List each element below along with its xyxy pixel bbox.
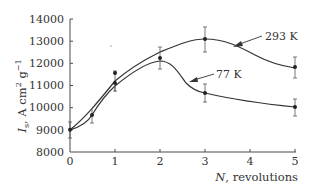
series-293k-line	[70, 39, 295, 130]
y-axis-label: Is, A cm2 g−1	[14, 59, 31, 133]
y-tick-label: 14000	[29, 13, 64, 26]
y-tick-labels: 14000 13000 12000 11000 10000 9000 8000	[29, 13, 64, 159]
annotation-77k: 77 K	[189, 68, 242, 82]
x-tick-labels: 0 1 2 3 4 5	[67, 155, 299, 168]
x-axis-label: N, revolutions	[214, 170, 298, 184]
x-tick-label: 1	[112, 155, 119, 168]
annotation-293k: 293 K	[233, 30, 298, 47]
series-293k-points	[68, 37, 297, 132]
y-tick-label: 11000	[29, 79, 64, 92]
y-tick-label: 8000	[36, 146, 64, 159]
label-293k: 293 K	[265, 30, 298, 43]
x-tick-label: 2	[157, 155, 164, 168]
y-tick-label: 12000	[29, 57, 64, 70]
x-tick-label: 4	[247, 155, 254, 168]
x-tick-label: 3	[202, 155, 209, 168]
chart: 14000 13000 12000 11000 10000 9000 8000 …	[0, 0, 312, 192]
x-tick-label: 5	[292, 155, 299, 168]
stray-mark	[110, 45, 112, 47]
series-77k-points	[90, 56, 297, 117]
y-tick-label: 10000	[29, 101, 64, 114]
y-tick-label: 9000	[36, 124, 64, 137]
label-77k: 77 K	[216, 68, 242, 81]
x-tick-label: 0	[67, 155, 74, 168]
y-tick-label: 13000	[29, 35, 64, 48]
